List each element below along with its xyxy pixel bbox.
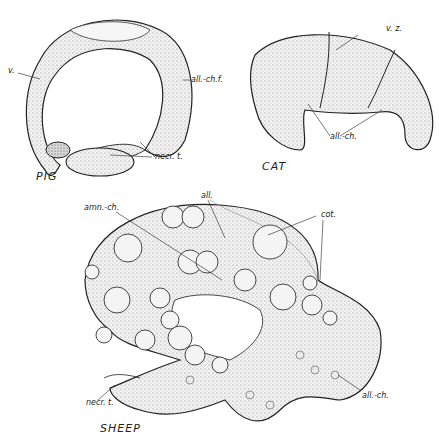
sheep-label-cot: cot. [321, 210, 336, 219]
pig-title: PIG [36, 170, 57, 183]
pig-label-v: v. [8, 66, 15, 75]
sheep-label-all-ch: all.-ch. [362, 391, 389, 400]
pig-label-necr-t: necr. t. [155, 152, 183, 161]
cat-label-all-ch: all.-ch. [330, 132, 357, 141]
cat-label-v-z: v. z. [386, 24, 402, 33]
sheep-label-all: all. [201, 191, 213, 200]
pig-label-all-ch-f: all.-ch.f. [191, 75, 223, 84]
illustration-canvas [0, 0, 439, 445]
sheep-label-amn-ch: amn.-ch. [84, 203, 119, 212]
cat-title: CAT [262, 160, 286, 173]
sheep-embryo-drawing [85, 200, 381, 421]
sheep-label-necr-t: necr. t. [86, 398, 114, 407]
sheep-title: SHEEP [100, 422, 141, 435]
